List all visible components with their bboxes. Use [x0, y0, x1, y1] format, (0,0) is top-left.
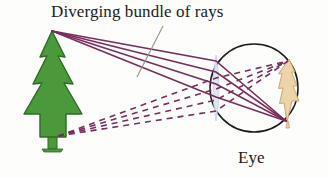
page-title: Diverging bundle of rays: [51, 2, 224, 22]
diagram-canvas: Diverging bundle of rays Eye: [0, 0, 328, 178]
eye-label: Eye: [238, 148, 264, 168]
optics-diagram: [0, 0, 328, 178]
title-leader-line: [137, 26, 163, 77]
